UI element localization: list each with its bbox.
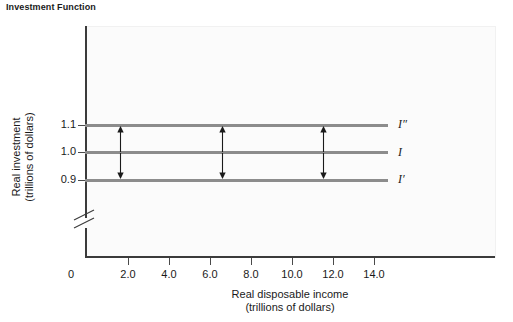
shift-up-arrow-2 (218, 126, 227, 152)
x-tick-label-5: 10.0 (281, 268, 302, 280)
x-tick-3 (251, 258, 252, 265)
shift-up-arrow-3 (319, 126, 328, 152)
line-label-i-double-prime: I″ (398, 117, 407, 132)
x-axis-title-line-2: (trillions of dollars) (150, 301, 430, 314)
x-tick-label-3: 6.0 (202, 268, 217, 280)
x-axis-title-line-1: Real disposable income (150, 288, 430, 301)
x-tick-4 (292, 258, 293, 265)
y-axis-title-line-2: (trillions of dollars) (23, 72, 36, 242)
shift-down-arrow-3 (319, 153, 328, 179)
y-axis-title: Real investment (trillions of dollars) (10, 72, 36, 242)
x-tick-label-0: 0 (68, 268, 74, 280)
y-axis-title-line-1: Real investment (10, 72, 23, 242)
x-axis-title: Real disposable income (trillions of dol… (150, 288, 430, 314)
line-label-i-prime: I′ (398, 172, 405, 187)
x-tick-6 (374, 258, 375, 265)
y-tick-label-1: 1.1 (44, 118, 76, 130)
investment-function-figure: Investment Function 1.1 1.0 0.9 0 2.0 4.… (0, 0, 513, 322)
y-axis-upper-segment (85, 26, 87, 218)
investment-line-i-prime (85, 179, 388, 182)
shift-up-arrow-1 (116, 126, 125, 152)
x-tick-label-2: 4.0 (161, 268, 176, 280)
axis-break-icon (72, 206, 100, 234)
x-tick-label-6: 12.0 (322, 268, 343, 280)
x-tick-label-4: 8.0 (243, 268, 258, 280)
x-tick-label-1: 2.0 (120, 268, 135, 280)
x-tick-5 (333, 258, 334, 265)
investment-line-i-double-prime (85, 124, 388, 127)
investment-line-i (85, 151, 388, 154)
shift-down-arrow-2 (218, 153, 227, 179)
x-tick-2 (210, 258, 211, 265)
x-axis-line (85, 256, 495, 258)
x-tick-0 (128, 258, 129, 265)
y-tick-label-2: 1.0 (44, 145, 76, 157)
y-tick-label-3: 0.9 (44, 173, 76, 185)
plot-background (85, 26, 496, 258)
x-tick-1 (169, 258, 170, 265)
x-tick-label-7: 14.0 (363, 268, 384, 280)
line-label-i: I (398, 145, 402, 160)
shift-down-arrow-1 (116, 153, 125, 179)
